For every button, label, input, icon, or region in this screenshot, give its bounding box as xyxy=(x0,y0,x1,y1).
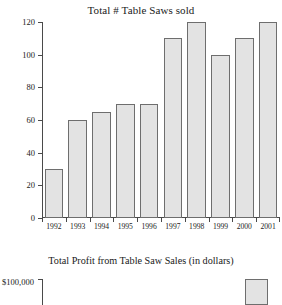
x-tick-label: 1994 xyxy=(94,222,109,231)
bar xyxy=(235,38,254,218)
y-tick-label: 40 xyxy=(27,148,36,158)
y-tick-mark xyxy=(38,153,43,154)
y-tick-mark xyxy=(38,120,43,121)
bar xyxy=(116,104,135,218)
y-tick-label: 80 xyxy=(27,82,36,92)
table-saw-profit-chart: Total Profit from Table Saw Sales (in do… xyxy=(0,249,282,305)
y-tick-label: 0 xyxy=(31,213,35,223)
bar xyxy=(92,112,111,218)
y-tick-mark xyxy=(38,55,43,56)
x-tick-label: 1996 xyxy=(142,222,157,231)
x-tick-label: 1998 xyxy=(189,222,204,231)
x-tick-mark xyxy=(232,217,233,222)
y-tick-mark xyxy=(38,185,43,186)
bar xyxy=(245,279,268,305)
x-tick-label: 1999 xyxy=(213,222,228,231)
bar xyxy=(45,169,64,218)
y-tick-mark xyxy=(38,22,43,23)
x-tick-mark xyxy=(161,217,162,222)
x-tick-mark xyxy=(185,217,186,222)
y-tick-label: 100 xyxy=(22,50,35,60)
x-tick-mark xyxy=(90,217,91,222)
x-tick-label: 1995 xyxy=(118,222,133,231)
x-tick-mark xyxy=(137,217,138,222)
bar xyxy=(140,104,159,218)
plot-area: 0204060801001201992199319941995199619971… xyxy=(42,22,280,218)
plot-area xyxy=(42,279,280,305)
y-tick-mark xyxy=(38,87,43,88)
bar xyxy=(164,38,183,218)
x-tick-label: 1997 xyxy=(165,222,180,231)
y-tick-mark xyxy=(38,279,43,280)
x-tick-label: 2000 xyxy=(237,222,252,231)
bar xyxy=(68,120,87,218)
x-tick-label: 1992 xyxy=(46,222,61,231)
x-tick-mark xyxy=(42,217,43,222)
x-tick-mark xyxy=(113,217,114,222)
y-tick-label: 60 xyxy=(27,115,36,125)
x-tick-mark xyxy=(66,217,67,222)
table-saws-sold-chart: Total # Table Saws sold 0204060801001201… xyxy=(0,0,282,240)
x-tick-mark xyxy=(256,217,257,222)
x-tick-label: 1993 xyxy=(70,222,85,231)
x-tick-label: 2001 xyxy=(261,222,276,231)
y-axis-line xyxy=(42,279,43,305)
y-tick-label: $100,000 xyxy=(2,277,34,287)
bar xyxy=(211,55,230,218)
bar xyxy=(259,22,278,218)
x-tick-mark xyxy=(279,217,280,222)
y-tick-label: 20 xyxy=(27,180,36,190)
chart-title: Total Profit from Table Saw Sales (in do… xyxy=(0,255,282,266)
bar xyxy=(187,22,206,218)
chart-title: Total # Table Saws sold xyxy=(0,4,282,16)
y-tick-label: 120 xyxy=(22,17,35,27)
x-tick-mark xyxy=(209,217,210,222)
